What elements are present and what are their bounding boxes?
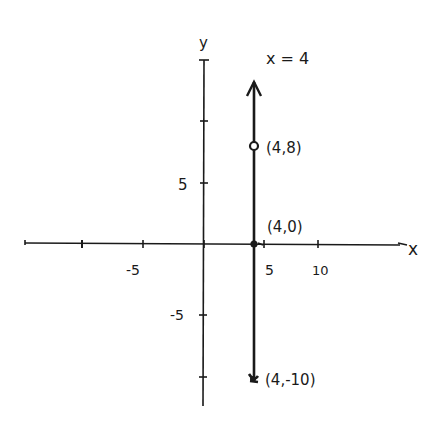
line-equation-label: x = 4 (266, 49, 309, 68)
coordinate-graph: y x = 4 x -5 5 10 5 -5 (4,8) (4,0) (4,-1… (0, 0, 448, 433)
point-4-8-marker (250, 142, 258, 150)
point-4-0-marker (250, 240, 257, 247)
x-tick-label-10: 10 (312, 263, 329, 278)
point-4-8-label: (4,8) (266, 139, 302, 157)
point-4-neg10-label: (4,-10) (265, 371, 316, 389)
x-axis (25, 240, 407, 248)
y-tick-label-5: 5 (178, 176, 188, 194)
x-tick-label-5: 5 (265, 262, 274, 278)
y-axis-label: y (199, 34, 208, 52)
x-axis-label: x (408, 239, 418, 259)
x-tick-label-neg5: -5 (126, 262, 140, 278)
point-4-0-label: (4,0) (267, 218, 303, 236)
y-tick-label-neg5: -5 (170, 307, 184, 323)
line-x-equals-4 (247, 82, 261, 380)
y-axis (199, 60, 209, 406)
